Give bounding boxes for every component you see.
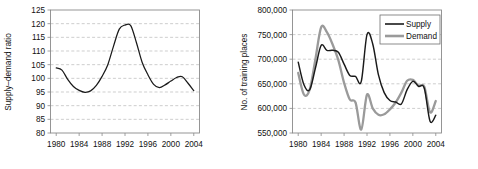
left-y-tick-labels: 125 120 115 110 105 100 95 90 85 80: [31, 6, 45, 138]
left-ytick: 85: [36, 115, 46, 124]
left-x-tick-labels: 1980 1984 1988 1992 1996 2000 2004: [47, 140, 203, 149]
legend[interactable]: Supply Demand: [380, 15, 440, 44]
figure-two-panel-charts: Supply–demand ratio: [0, 0, 478, 169]
left-ytick: 80: [36, 129, 46, 138]
right-xtick: 1992: [358, 140, 377, 149]
right-ytick: 750,000: [257, 31, 287, 40]
left-xtick: 2000: [162, 140, 181, 149]
right-y-tick-labels: 800,000 750,000 700,000 650,000 600,000 …: [257, 6, 287, 138]
left-plot-frame: [51, 10, 200, 133]
left-ytick: 115: [32, 33, 45, 42]
left-ytick: 105: [31, 61, 45, 70]
right-y-axis-title: No. of training places: [240, 34, 249, 111]
left-y-axis-title: Supply–demand ratio: [4, 33, 13, 111]
left-xtick: 1980: [47, 140, 66, 149]
left-ytick: 100: [31, 74, 45, 83]
right-x-tick-labels: 1980 1984 1988 1992 1996 2000 2004: [289, 140, 445, 149]
left-ytick: 125: [31, 6, 45, 15]
left-ytick: 120: [31, 20, 45, 29]
right-xtick: 1984: [312, 140, 331, 149]
left-ytick: 95: [36, 88, 46, 97]
left-xtick: 2004: [185, 140, 204, 149]
right-xtick: 1980: [289, 140, 308, 149]
right-xtick: 1988: [335, 140, 354, 149]
left-ytick: 110: [32, 47, 45, 56]
left-gridlines: [51, 24, 200, 120]
right-ytick: 600,000: [257, 104, 287, 113]
left-chart-svg: Supply–demand ratio: [0, 0, 239, 169]
left-xtick: 1984: [70, 140, 89, 149]
right-series-supply-line: [298, 32, 436, 122]
chart-supply-demand-ratio: Supply–demand ratio: [0, 0, 239, 169]
right-ytick: 650,000: [257, 80, 287, 89]
left-xtick: 1996: [139, 140, 158, 149]
legend-label-supply: Supply: [406, 20, 432, 29]
right-ytick: 700,000: [257, 55, 287, 64]
right-xtick: 2004: [427, 140, 446, 149]
left-series-line: [56, 24, 194, 92]
left-ytick: 90: [36, 102, 46, 111]
right-y-tickmarks: [290, 10, 293, 133]
right-xtick: 2000: [404, 140, 423, 149]
right-ytick: 800,000: [257, 6, 287, 15]
right-chart-svg: No. of training places 800,0: [239, 0, 478, 169]
right-xtick: 1996: [381, 140, 400, 149]
right-ytick: 550,000: [257, 129, 287, 138]
left-xtick: 1988: [93, 140, 112, 149]
legend-label-demand: Demand: [406, 32, 437, 41]
left-xtick: 1992: [116, 140, 135, 149]
chart-training-places: No. of training places 800,0: [239, 0, 478, 169]
